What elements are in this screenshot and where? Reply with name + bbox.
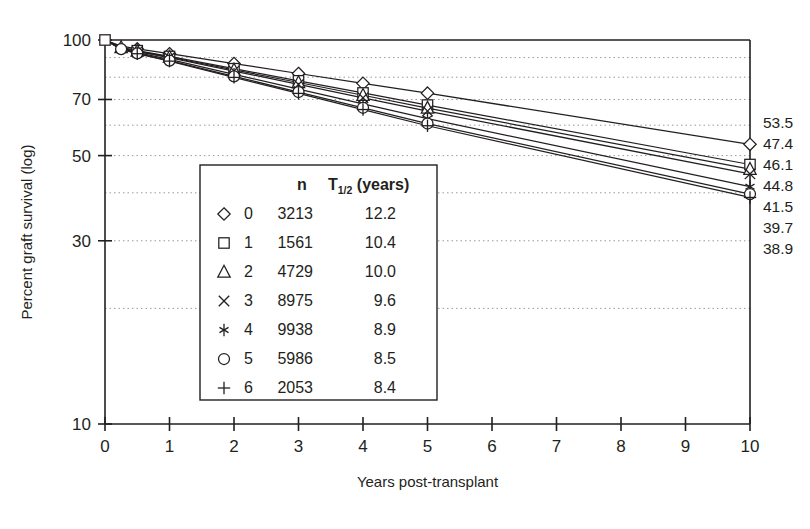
y-tick-label: 30 [72, 232, 91, 251]
legend-n-0: 3213 [277, 205, 313, 222]
legend-marker-5 [219, 354, 230, 365]
data-point-0 [421, 87, 433, 99]
legend-box [200, 165, 437, 400]
legend-n-6: 2053 [277, 379, 313, 396]
end-label-4: 41.5 [763, 198, 793, 215]
x-tick-label: 3 [294, 437, 303, 456]
end-label-0: 53.5 [763, 114, 793, 131]
y-axis-title: Percent graft survival (log) [18, 144, 35, 319]
x-tick-label: 1 [165, 437, 174, 456]
y-tick-label: 70 [72, 90, 91, 109]
legend-label-5: 5 [244, 350, 253, 367]
x-tick-label: 7 [552, 437, 561, 456]
x-tick-label: 9 [681, 437, 690, 456]
legend-label-4: 4 [244, 321, 253, 338]
legend-halflife-1: 10.4 [365, 234, 396, 251]
legend-n-5: 5986 [277, 350, 313, 367]
legend-n-3: 8975 [277, 292, 313, 309]
data-point-5 [116, 44, 127, 55]
legend-halflife-0: 12.2 [365, 205, 396, 222]
legend-halflife-3: 9.6 [374, 292, 396, 309]
x-tick-label: 6 [487, 437, 496, 456]
end-label-6: 38.9 [763, 240, 793, 257]
chart-canvas: 10070503010012345678910Years post-transp… [0, 0, 810, 529]
legend-marker-1 [219, 238, 229, 248]
x-tick-label: 5 [423, 437, 432, 456]
legend-n-2: 4729 [277, 263, 313, 280]
graft-survival-chart: 10070503010012345678910Years post-transp… [0, 0, 810, 529]
legend-header-n: n [297, 176, 307, 193]
x-tick-label: 2 [229, 437, 238, 456]
end-label-1: 47.4 [763, 135, 794, 152]
y-tick-label: 100 [63, 31, 91, 50]
legend-label-2: 2 [244, 263, 253, 280]
legend-label-0: 0 [244, 205, 253, 222]
legend-halflife-5: 8.5 [374, 350, 396, 367]
legend-halflife-6: 8.4 [374, 379, 396, 396]
origin-marker [100, 35, 110, 45]
x-tick-label: 4 [358, 437, 367, 456]
legend-halflife-4: 8.9 [374, 321, 396, 338]
legend-label-1: 1 [244, 234, 253, 251]
end-label-5: 39.7 [763, 219, 793, 236]
x-tick-label: 10 [741, 437, 760, 456]
x-tick-label: 8 [616, 437, 625, 456]
y-tick-label: 10 [72, 415, 91, 434]
legend-n-4: 9938 [277, 321, 313, 338]
end-label-2: 46.1 [763, 156, 793, 173]
legend-label-6: 6 [244, 379, 253, 396]
legend-label-3: 3 [244, 292, 253, 309]
x-tick-label: 0 [100, 437, 109, 456]
legend-n-1: 1561 [277, 234, 313, 251]
end-label-3: 44.8 [763, 177, 793, 194]
data-point-0 [744, 138, 756, 150]
y-tick-label: 50 [72, 147, 91, 166]
legend-halflife-2: 10.0 [365, 263, 396, 280]
x-axis-title: Years post-transplant [357, 473, 499, 490]
